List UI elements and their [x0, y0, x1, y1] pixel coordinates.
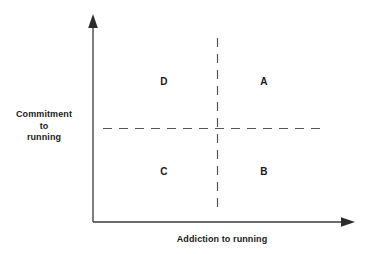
y-axis-label-line-2: to — [2, 121, 86, 133]
quadrant-label-d: D — [154, 76, 174, 88]
quadrant-label-a: A — [254, 76, 274, 88]
x-axis-arrowhead-icon — [341, 217, 355, 227]
quadrant-diagram-figure: D A C B Commitment to running Addiction … — [0, 0, 369, 254]
y-axis-label-line-3: running — [2, 132, 86, 144]
y-axis-label-line-1: Commitment — [2, 109, 86, 121]
y-axis-arrowhead-icon — [88, 14, 98, 28]
y-axis-label: Commitment to running — [2, 109, 86, 144]
x-axis-label: Addiction to running — [132, 234, 312, 245]
quadrant-label-b: B — [254, 166, 274, 178]
quadrant-label-c: C — [154, 166, 174, 178]
